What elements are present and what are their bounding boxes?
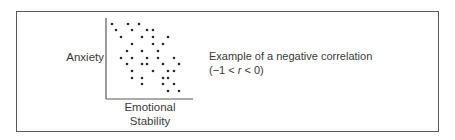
data-point <box>131 77 134 80</box>
data-point <box>152 43 155 46</box>
data-point <box>173 83 176 86</box>
caption-suffix: < 0) <box>241 64 263 76</box>
data-point <box>146 29 149 32</box>
data-point <box>173 57 176 60</box>
data-point <box>141 50 144 53</box>
data-point <box>157 50 160 53</box>
caption-line1: Example of a negative correlation <box>209 50 372 64</box>
data-point <box>141 63 144 66</box>
data-point <box>126 50 129 53</box>
data-point <box>141 36 144 39</box>
data-point <box>167 70 170 73</box>
chart-caption: Example of a negative correlation (−1 < … <box>209 50 372 77</box>
data-point <box>131 29 134 32</box>
data-point <box>178 63 181 66</box>
data-point <box>167 36 170 39</box>
data-point <box>131 43 134 46</box>
caption-line2: (−1 < r < 0) <box>209 64 372 78</box>
data-point <box>120 36 123 39</box>
data-point <box>111 23 114 26</box>
data-point <box>146 63 149 66</box>
data-point <box>162 83 165 86</box>
data-point <box>152 29 155 32</box>
data-point <box>178 90 181 93</box>
data-point <box>157 57 160 60</box>
data-point <box>152 36 155 39</box>
data-point <box>141 77 144 80</box>
data-point <box>167 90 170 93</box>
data-point <box>146 57 149 60</box>
data-point <box>162 43 165 46</box>
caption-prefix: (−1 < <box>209 64 238 76</box>
data-point <box>167 77 170 80</box>
data-point <box>131 70 134 73</box>
data-point <box>152 70 155 73</box>
data-point <box>115 29 118 32</box>
x-axis-label: Emotional Stability <box>110 101 190 128</box>
data-point <box>127 23 130 26</box>
x-axis-label-line2: Stability <box>110 115 190 129</box>
plot-axes <box>106 18 193 99</box>
data-point <box>120 57 123 60</box>
data-points <box>111 23 181 93</box>
x-axis-label-line1: Emotional <box>110 101 190 115</box>
data-point <box>162 63 165 66</box>
data-point <box>131 57 134 60</box>
data-point <box>162 77 165 80</box>
data-point <box>141 83 144 86</box>
data-point <box>126 63 129 66</box>
data-point <box>138 23 141 26</box>
data-point <box>173 70 176 73</box>
